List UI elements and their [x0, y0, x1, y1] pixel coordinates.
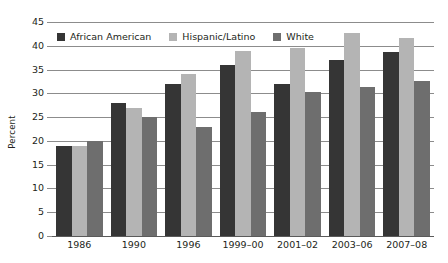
- bar-group-2007-08: [383, 22, 430, 236]
- legend-label: Hispanic/Latino: [182, 32, 255, 42]
- y-axis-title: Percent: [5, 0, 19, 263]
- bar: [305, 92, 321, 236]
- x-axis-label: 2001–02: [277, 240, 318, 250]
- y-axis-title-text: Percent: [7, 115, 17, 148]
- bar: [126, 108, 142, 236]
- bar: [165, 84, 181, 236]
- y-tick-label-10: 10: [32, 184, 44, 194]
- bar: [142, 117, 158, 236]
- bar: [414, 81, 430, 236]
- bar-group-2001-02: [274, 22, 321, 236]
- bar: [399, 38, 415, 236]
- bar: [383, 52, 399, 237]
- plot-area: 051015202530354045: [52, 22, 434, 236]
- x-axis-labels: 1986199019961999–002001–022003–062007–08: [52, 240, 434, 256]
- bar: [220, 65, 236, 236]
- bar: [196, 127, 212, 236]
- bar: [56, 146, 72, 236]
- y-tick-label-35: 35: [32, 65, 44, 75]
- gridline-0: [52, 236, 434, 237]
- legend-label: African American: [70, 32, 151, 42]
- x-axis-label: 2003–06: [332, 240, 373, 250]
- bar: [72, 146, 88, 236]
- bar-group-1999-00: [220, 22, 267, 236]
- legend-swatch-icon: [169, 33, 177, 41]
- bar-group-1986: [56, 22, 103, 236]
- y-tick-label-20: 20: [32, 136, 44, 146]
- bar-group-2003-06: [329, 22, 376, 236]
- legend-label: White: [286, 32, 314, 42]
- bar: [181, 74, 197, 236]
- bars-layer: [52, 22, 434, 236]
- legend-item-white[interactable]: White: [273, 32, 314, 42]
- bar: [344, 33, 360, 236]
- legend-swatch-icon: [273, 33, 281, 41]
- bar-chart: Percent 051015202530354045 1986199019961…: [0, 0, 448, 263]
- bar: [87, 141, 103, 236]
- legend-swatch-icon: [57, 33, 65, 41]
- x-axis-label: 2007–08: [386, 240, 427, 250]
- bar: [111, 103, 127, 236]
- bar-group-1990: [111, 22, 158, 236]
- chart-legend: African AmericanHispanic/LatinoWhite: [56, 31, 317, 43]
- x-axis-label: 1986: [67, 240, 91, 250]
- bar: [251, 112, 267, 236]
- legend-item-african-american[interactable]: African American: [57, 32, 151, 42]
- x-axis-label: 1990: [122, 240, 146, 250]
- y-tick-label-0: 0: [38, 231, 44, 241]
- bar: [329, 60, 345, 236]
- bar-group-1996: [165, 22, 212, 236]
- y-tick-label-40: 40: [32, 41, 44, 51]
- x-axis-label: 1996: [176, 240, 200, 250]
- y-tick-label-30: 30: [32, 89, 44, 99]
- y-tick-label-5: 5: [38, 207, 44, 217]
- x-axis-label: 1999–00: [222, 240, 263, 250]
- bar: [290, 48, 306, 236]
- bar: [274, 84, 290, 236]
- bar: [360, 87, 376, 236]
- y-tick-label-15: 15: [32, 160, 44, 170]
- bar: [235, 51, 251, 236]
- y-tick-label-45: 45: [32, 17, 44, 27]
- y-tick-label-25: 25: [32, 112, 44, 122]
- legend-item-hispanic-latino[interactable]: Hispanic/Latino: [169, 32, 255, 42]
- y-tick-mark-0: [47, 236, 52, 237]
